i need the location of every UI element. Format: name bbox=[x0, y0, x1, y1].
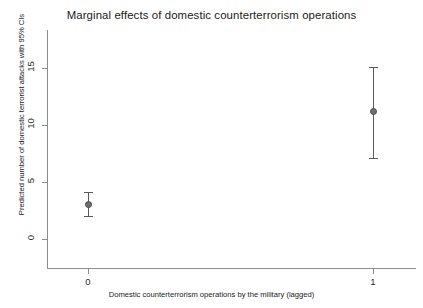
error-bar-cap-upper bbox=[369, 67, 378, 68]
y-axis-spine bbox=[47, 30, 48, 268]
x-axis-spine bbox=[47, 268, 416, 269]
y-tick-label: 15 bbox=[25, 57, 36, 77]
chart-title: Marginal effects of domestic counterterr… bbox=[0, 9, 423, 21]
error-bar-cap-lower bbox=[369, 158, 378, 159]
y-tick-mark bbox=[42, 239, 47, 240]
x-tick-mark bbox=[88, 269, 89, 274]
y-tick-mark bbox=[42, 68, 47, 69]
y-tick-label-wrap: 0 bbox=[20, 232, 40, 246]
y-axis-title: Predicted number of domestic terrorist a… bbox=[17, 10, 26, 220]
y-tick-label: 10 bbox=[25, 114, 36, 134]
x-tick-label: 1 bbox=[358, 276, 388, 287]
y-tick-mark bbox=[42, 182, 47, 183]
x-tick-label: 0 bbox=[73, 276, 103, 287]
y-tick-mark bbox=[42, 125, 47, 126]
chart-figure: Marginal effects of domestic counterterr… bbox=[0, 0, 423, 308]
y-tick-label: 0 bbox=[25, 228, 36, 248]
error-bar-cap-lower bbox=[84, 216, 93, 217]
y-tick-label: 5 bbox=[25, 171, 36, 191]
x-tick-mark bbox=[373, 269, 374, 274]
x-axis-title: Domestic counterterrorism operations by … bbox=[0, 290, 423, 299]
point-marker[interactable] bbox=[85, 201, 92, 208]
error-bar-cap-upper bbox=[84, 192, 93, 193]
point-marker[interactable] bbox=[370, 108, 377, 115]
